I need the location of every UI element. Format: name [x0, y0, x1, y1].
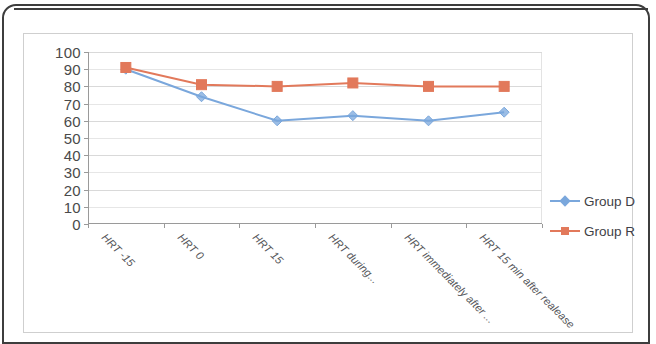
data-point-marker [424, 116, 434, 126]
data-point-marker [197, 92, 207, 102]
y-axis-tick-label: 100 [55, 44, 81, 61]
diamond-marker-icon [559, 195, 570, 206]
y-axis-tick-label: 0 [72, 216, 81, 233]
y-axis-tick-label: 70 [64, 95, 81, 112]
series-line-group-d [126, 69, 504, 121]
data-point-marker [197, 80, 207, 90]
x-axis-tick [315, 224, 316, 228]
x-axis-category-label: HRT -15 [99, 231, 137, 269]
series-line-group-r [126, 67, 504, 86]
y-axis-tick-label: 10 [64, 198, 81, 215]
line-chart[interactable]: 0102030405060708090100 HRT -15HRT 0HRT 1… [23, 33, 633, 333]
x-axis-tick [466, 224, 467, 228]
x-axis-tick [391, 224, 392, 228]
data-point-marker [348, 111, 358, 121]
y-axis-tick-label: 50 [64, 130, 81, 147]
x-axis-tick [239, 224, 240, 228]
legend-label-group-r: Group R [584, 224, 635, 239]
page-top-rule [14, 8, 648, 10]
data-point-marker [499, 107, 509, 117]
x-axis-tick [164, 224, 165, 228]
series-plot [88, 52, 542, 224]
data-point-marker [272, 81, 282, 91]
data-point-marker [121, 62, 131, 72]
legend-item-group-r[interactable]: Group R [550, 216, 630, 246]
square-marker-icon [561, 227, 569, 235]
x-axis-category-label: HRT during... [326, 231, 381, 286]
data-point-marker [424, 81, 434, 91]
y-axis-tick-label: 30 [64, 164, 81, 181]
data-point-marker [348, 78, 358, 88]
x-axis-category-label: HRT 15 [251, 231, 286, 266]
legend-label-group-d: Group D [584, 194, 635, 209]
legend-swatch-group-d [550, 194, 580, 208]
y-axis-tick-label: 20 [64, 181, 81, 198]
y-axis-tick-label: 60 [64, 112, 81, 129]
x-axis-category-label: HRT 0 [175, 231, 206, 262]
y-axis-tick-label: 90 [64, 61, 81, 78]
legend-item-group-d[interactable]: Group D [550, 186, 630, 216]
data-point-marker [499, 81, 509, 91]
y-axis-tick-label: 40 [64, 147, 81, 164]
x-axis-tick [88, 224, 89, 228]
plot-area: 0102030405060708090100 HRT -15HRT 0HRT 1… [88, 52, 542, 224]
data-point-marker [272, 116, 282, 126]
x-axis-tick [542, 224, 543, 228]
legend-swatch-group-r [550, 224, 580, 238]
y-axis-tick-label: 80 [64, 78, 81, 95]
chart-legend: Group D Group R [550, 186, 630, 246]
